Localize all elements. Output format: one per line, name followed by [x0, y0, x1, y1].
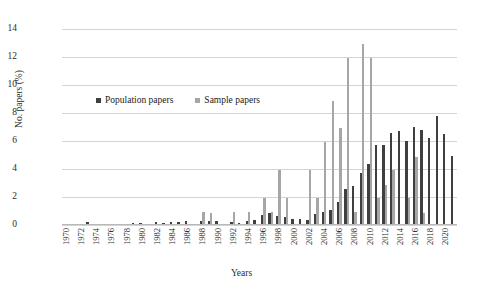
x-axis-tick-slot: 1996 — [259, 228, 267, 264]
year-bar-group — [77, 29, 85, 225]
y-axis-tick-label: 10 — [0, 80, 17, 90]
x-axis-tick-slot: 1972 — [77, 228, 85, 264]
year-bar-group — [358, 29, 366, 225]
bar-sample — [278, 170, 280, 225]
year-bar-group — [381, 29, 389, 225]
bar-population — [436, 116, 438, 225]
y-axis-tick-label: 6 — [0, 136, 17, 146]
bar-sample — [362, 44, 364, 225]
legend-label: Population papers — [105, 95, 173, 105]
bar-population — [428, 138, 430, 225]
bar-sample — [248, 212, 250, 225]
bar-sample — [263, 198, 265, 225]
year-bar-group — [259, 29, 267, 225]
bar-sample — [332, 101, 334, 225]
bar-population — [420, 130, 422, 225]
year-bar-group — [275, 29, 283, 225]
year-bar-group — [130, 29, 138, 225]
year-bar-group — [297, 29, 305, 225]
bar-sample — [316, 198, 318, 225]
year-bar-group — [168, 29, 176, 225]
year-bar-group — [92, 29, 100, 225]
year-bar-group — [419, 29, 427, 225]
legend-label: Sample papers — [204, 95, 260, 105]
y-axis-tick-label: 8 — [0, 108, 17, 118]
y-axis-tick-label: 0 — [0, 220, 17, 230]
year-bar-group — [305, 29, 313, 225]
year-bar-group — [427, 29, 435, 225]
x-axis-tick-slot: 2014 — [396, 228, 404, 264]
year-bar-group — [442, 29, 450, 225]
x-axis-tick-slot: 1982 — [153, 228, 161, 264]
x-axis-tick-slot: 2000 — [290, 228, 298, 264]
x-axis-tick-slot: 1994 — [244, 228, 252, 264]
year-bar-group — [206, 29, 214, 225]
year-bar-group — [351, 29, 359, 225]
year-bar-group — [108, 29, 116, 225]
y-axis-tick-label: 14 — [0, 24, 17, 34]
x-axis-tick-labels: 1970197219741976197819801982198419861988… — [62, 228, 457, 264]
x-axis-tick-slot: 2020 — [442, 228, 450, 264]
bar-sample — [370, 58, 372, 225]
year-bar-group — [252, 29, 260, 225]
year-bar-group — [161, 29, 169, 225]
bar-sample — [392, 170, 394, 225]
year-bar-group — [237, 29, 245, 225]
year-bar-group — [191, 29, 199, 225]
x-axis-tick-slot: 2008 — [351, 228, 359, 264]
year-bar-group — [389, 29, 397, 225]
bar-sample — [377, 198, 379, 225]
year-bar-group — [343, 29, 351, 225]
chart-container: No. papers (%) 02468101214 1970197219741… — [0, 0, 483, 288]
bar-series-group — [62, 29, 457, 225]
x-axis-title: Years — [0, 268, 483, 278]
year-bar-group — [434, 29, 442, 225]
bar-sample — [347, 58, 349, 225]
bar-sample — [309, 170, 311, 225]
bar-sample — [339, 128, 341, 225]
year-bar-group — [366, 29, 374, 225]
year-bar-group — [100, 29, 108, 225]
year-bar-group — [199, 29, 207, 225]
x-axis-tick-slot: 1976 — [108, 228, 116, 264]
year-bar-group — [62, 29, 70, 225]
x-axis-tick-slot: 1978 — [123, 228, 131, 264]
gridline — [62, 225, 457, 226]
y-axis-tick-label: 2 — [0, 192, 17, 202]
year-bar-group — [115, 29, 123, 225]
x-axis-tick-slot: 1990 — [214, 228, 222, 264]
year-bar-group — [221, 29, 229, 225]
year-bar-group — [70, 29, 78, 225]
year-bar-group — [282, 29, 290, 225]
year-bar-group — [335, 29, 343, 225]
year-bar-group — [176, 29, 184, 225]
chart-legend: Population papersSample papers — [96, 95, 260, 105]
year-bar-group — [267, 29, 275, 225]
bar-population — [443, 134, 445, 225]
year-bar-group — [214, 29, 222, 225]
x-axis-tick-slot: 2010 — [366, 228, 374, 264]
bar-population — [398, 131, 400, 225]
year-bar-group — [244, 29, 252, 225]
x-axis-tick-slot: 2012 — [381, 228, 389, 264]
bar-sample — [385, 185, 387, 225]
year-bar-group — [411, 29, 419, 225]
bar-sample — [408, 198, 410, 225]
year-bar-group — [449, 29, 457, 225]
x-axis-tick-slot: 2002 — [305, 228, 313, 264]
legend-entry: Sample papers — [195, 95, 260, 105]
year-bar-group — [229, 29, 237, 225]
legend-square-marker — [195, 98, 200, 103]
year-bar-group — [373, 29, 381, 225]
y-axis-tick-label: 4 — [0, 164, 17, 174]
x-axis-tick-slot: 1970 — [62, 228, 70, 264]
legend-entry: Population papers — [96, 95, 173, 105]
x-axis-line — [62, 224, 457, 225]
x-axis-tick-slot — [449, 228, 457, 264]
year-bar-group — [146, 29, 154, 225]
year-bar-group — [328, 29, 336, 225]
year-bar-group — [313, 29, 321, 225]
bar-population — [451, 156, 453, 225]
legend-square-marker — [96, 98, 101, 103]
x-axis-tick-slot: 1984 — [168, 228, 176, 264]
